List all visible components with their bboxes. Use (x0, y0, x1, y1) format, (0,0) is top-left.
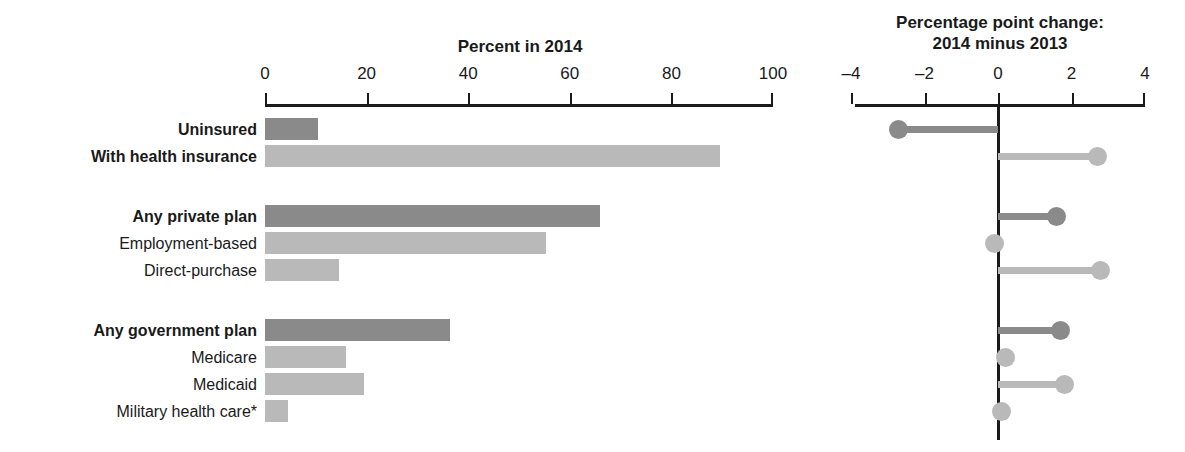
change-axis-tick-label: –4 (821, 64, 881, 84)
category-label: Medicare (0, 349, 257, 367)
left-panel-title: Percent in 2014 (380, 36, 660, 57)
change-axis-line (855, 104, 1145, 107)
percent-axis-tick (265, 93, 267, 104)
percent-axis-tick-label: 80 (641, 64, 701, 84)
category-label: Uninsured (0, 121, 257, 139)
right-panel-title: Percentage point change: 2014 minus 2013 (855, 12, 1145, 54)
change-axis-tick (998, 93, 1000, 104)
change-axis-tick-label: 4 (1115, 64, 1175, 84)
right-panel-title-line1: Percentage point change: (855, 12, 1145, 33)
change-dot[interactable] (1047, 207, 1066, 226)
percent-axis-tick (671, 93, 673, 104)
percent-bar[interactable] (265, 346, 346, 368)
percent-axis-tick-label: 20 (337, 64, 397, 84)
change-dot[interactable] (992, 402, 1011, 421)
right-panel-title-line2: 2014 minus 2013 (855, 33, 1145, 54)
percent-bar[interactable] (265, 319, 450, 341)
category-label: Any government plan (0, 322, 257, 340)
percent-bar[interactable] (265, 205, 600, 227)
change-dot[interactable] (985, 234, 1004, 253)
change-dot[interactable] (1051, 321, 1070, 340)
percent-axis-tick (570, 93, 572, 104)
percent-bar[interactable] (265, 118, 318, 140)
percent-bar[interactable] (265, 259, 339, 281)
percent-axis-tick-label: 100 (743, 64, 803, 84)
percent-axis-line (265, 104, 773, 107)
change-axis-tick (851, 93, 853, 104)
percent-axis-tick (771, 93, 773, 104)
percent-axis-tick (367, 93, 369, 104)
category-label: Employment-based (0, 235, 257, 253)
change-axis-tick-label: 0 (968, 64, 1028, 84)
change-dot[interactable] (1055, 375, 1074, 394)
category-label: Medicaid (0, 376, 257, 394)
percent-bar[interactable] (265, 232, 546, 254)
percent-axis-tick-label: 60 (540, 64, 600, 84)
category-label: Military health care* (0, 403, 257, 421)
category-label: Any private plan (0, 208, 257, 226)
change-stem (998, 153, 1097, 160)
change-dot[interactable] (1091, 261, 1110, 280)
percent-bar[interactable] (265, 373, 364, 395)
change-axis-tick-label: 2 (1042, 64, 1102, 84)
change-axis-tick (1072, 93, 1074, 104)
change-stem (899, 126, 998, 133)
change-dot[interactable] (1088, 147, 1107, 166)
change-axis-tick-label: –2 (895, 64, 955, 84)
change-stem (998, 267, 1101, 274)
percent-axis-tick-label: 0 (235, 64, 295, 84)
percent-bar[interactable] (265, 145, 720, 167)
change-axis-tick (925, 93, 927, 104)
change-axis-tick (1143, 93, 1145, 104)
percent-bar[interactable] (265, 400, 288, 422)
change-dot[interactable] (996, 348, 1015, 367)
category-label: Direct-purchase (0, 262, 257, 280)
change-dot[interactable] (889, 120, 908, 139)
percent-axis-tick (468, 93, 470, 104)
category-label: With health insurance (0, 148, 257, 166)
percent-axis-tick-label: 40 (438, 64, 498, 84)
